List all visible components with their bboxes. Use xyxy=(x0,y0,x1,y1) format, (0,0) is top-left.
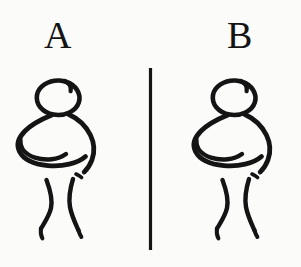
right-foot-b xyxy=(255,231,258,237)
right-foot-a xyxy=(79,231,82,237)
left-foot-a xyxy=(41,229,43,239)
panel-label-b: B xyxy=(222,16,258,54)
panel-label-a: A xyxy=(40,16,76,54)
left-foot-b xyxy=(217,229,219,239)
